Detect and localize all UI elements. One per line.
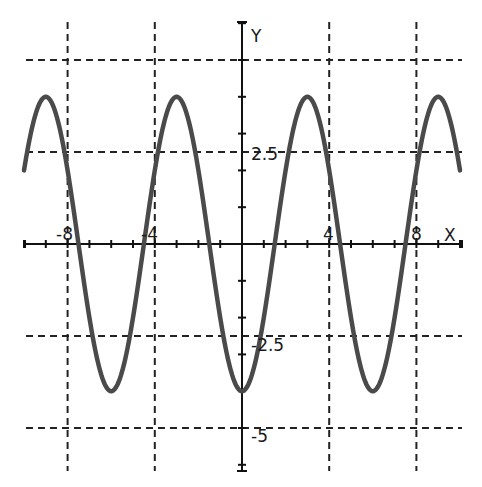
grid-lines: [26, 22, 462, 471]
function-plot: -8 -4 4 8 X Y 2.5 -2.5 -5: [0, 0, 482, 487]
y-tick-label-2-5: 2.5: [251, 144, 278, 164]
x-axis-label: X: [444, 225, 456, 245]
axes: [25, 22, 462, 471]
x-tick-label-4: 4: [323, 224, 334, 244]
y-axis-label: Y: [250, 26, 262, 46]
y-tick-label-neg5: -5: [251, 426, 268, 446]
x-tick-label-neg4: -4: [141, 224, 158, 244]
x-tick-label-8: 8: [411, 224, 422, 244]
x-tick-label-neg8: -8: [56, 224, 73, 244]
y-tick-label-neg2-5: -2.5: [251, 335, 284, 355]
